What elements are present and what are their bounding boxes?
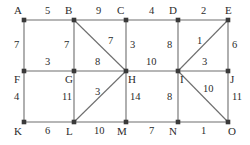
edge-weight-label: 10 [94,126,105,137]
node-label-o: O [228,126,236,137]
graph-node-e [226,18,230,22]
edge-weight-label: 14 [130,92,141,103]
edge-weight-label: 10 [203,84,214,95]
edge-weight-label: 8 [95,57,100,68]
graph-node-d [176,18,180,22]
node-label-c: C [117,5,124,16]
node-label-m: M [117,126,127,137]
graph-canvas [0,0,250,145]
edge-weight-label: 4 [14,92,19,103]
node-label-l: L [66,126,73,137]
node-label-a: A [14,5,22,16]
graph-node-n [176,120,180,124]
node-label-i: I [180,74,184,85]
graph-node-f [22,69,26,73]
edge-weight-label: 2 [201,6,206,17]
edge-weight-label: 11 [232,92,242,103]
edge-weight-label: 3 [130,40,135,51]
graph-node-o [226,120,230,124]
edge-weight-label: 6 [232,40,237,51]
edge-weight-label: 7 [14,40,19,51]
edge-weight-label: 3 [95,87,100,98]
edge-weight-label: 6 [45,126,50,137]
edge-weight-label: 10 [146,57,157,68]
edge-weight-label: 7 [108,36,113,47]
graph-node-c [124,18,128,22]
edge-weight-label: 1 [197,36,202,47]
graph-node-a [22,18,26,22]
node-label-b: B [65,5,72,16]
node-label-e: E [225,5,232,16]
node-label-h: H [128,74,136,85]
node-label-n: N [169,126,177,137]
graph-node-b [72,18,76,22]
edge-weight-label: 1 [201,126,206,137]
edge-weight-label: 5 [45,6,50,17]
node-label-f: F [14,74,20,85]
node-label-k: K [14,126,22,137]
graph-node-k [22,120,26,124]
edge-weight-label: 9 [96,6,101,17]
edge-weight-label: 7 [149,126,154,137]
edge-weight-label: 3 [202,57,207,68]
edge-weight-label: 8 [167,92,172,103]
edge-weight-label: 11 [62,92,72,103]
graph-edge [178,71,228,122]
graph-node-m [124,120,128,124]
node-label-g: G [65,74,73,85]
graph-node-l [72,120,76,124]
edge-weight-label: 7 [64,40,69,51]
edge-weight-label: 4 [149,6,154,17]
weighted-graph-diagram: 59423810361071773864111481173110 ABCDEFG… [0,0,250,145]
node-label-j: J [230,74,234,85]
edge-weight-label: 8 [167,40,172,51]
edge-weight-label: 3 [45,57,50,68]
node-label-d: D [169,5,177,16]
